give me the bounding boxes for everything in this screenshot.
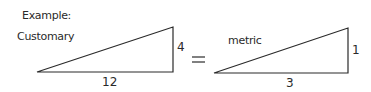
metric-height-label: 1 — [352, 43, 360, 57]
metric-base-label: 3 — [286, 76, 294, 90]
metric-label: metric — [228, 34, 262, 47]
customary-base-label: 12 — [102, 75, 117, 89]
similar-triangles-diagram: Example: Customary 4 12 metric 1 3 — [0, 0, 371, 92]
customary-height-label: 4 — [177, 40, 185, 54]
example-heading: Example: — [22, 9, 71, 22]
equals-sign — [192, 57, 205, 62]
customary-label: Customary — [17, 30, 74, 43]
